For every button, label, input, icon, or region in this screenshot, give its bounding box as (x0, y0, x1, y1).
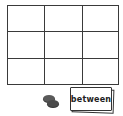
board-cell-r2-c1[interactable] (8, 32, 45, 59)
word-card-text: between (71, 95, 111, 104)
board-cell-r3-c2[interactable] (45, 59, 83, 84)
game-board (7, 5, 119, 85)
board-cell-r1-c1[interactable] (8, 6, 45, 32)
coin-icon (47, 100, 59, 107)
board-cell-r1-c2[interactable] (45, 6, 83, 32)
board-cell-r2-c2[interactable] (45, 32, 83, 59)
board-cell-r1-c3[interactable] (83, 6, 118, 32)
word-card[interactable]: between (70, 87, 112, 111)
board-cell-r3-c1[interactable] (8, 59, 45, 84)
board-cell-r3-c3[interactable] (83, 59, 118, 84)
board-cell-r2-c3[interactable] (83, 32, 118, 59)
word-card-deck[interactable]: between (70, 87, 114, 113)
coin-stack-icon[interactable] (43, 95, 60, 109)
